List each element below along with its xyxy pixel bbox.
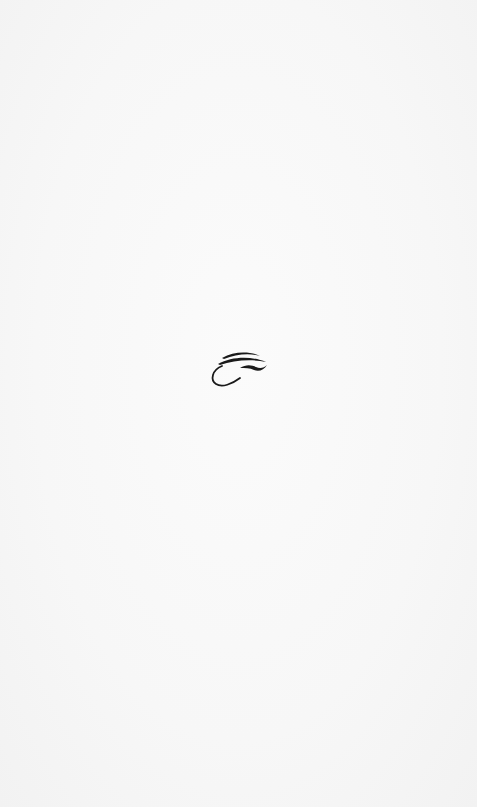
logo-stroke-middle <box>218 358 266 365</box>
logo-stroke-hook <box>213 366 240 386</box>
swoosh-logo-icon <box>210 350 268 388</box>
app-logo <box>210 350 268 388</box>
logo-stroke-wave <box>240 365 267 371</box>
splash-screen <box>0 0 477 807</box>
